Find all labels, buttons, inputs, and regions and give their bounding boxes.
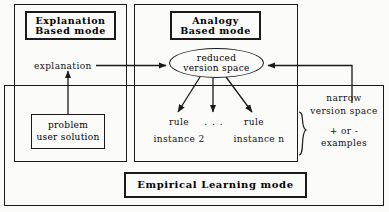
rvs-line-1: reduced xyxy=(197,53,236,63)
examples-line-2: examples xyxy=(305,138,383,149)
abm-line-2: Based mode xyxy=(180,26,251,36)
abm-line-1: Analogy xyxy=(192,16,239,26)
ellipsis-label: . . . xyxy=(197,117,231,128)
explanation-label: explanation xyxy=(34,61,92,72)
narrow-version-space-line-2: version space xyxy=(303,106,385,117)
reduced-version-space-node: reduced version space xyxy=(169,48,264,78)
rule-instance-n-line-2: instance n xyxy=(223,134,295,145)
rule-instance-2-line-1: rule xyxy=(158,117,200,128)
problem-user-solution-node: problem user solution xyxy=(31,114,105,149)
explanation-based-mode-label: Explanation Based mode xyxy=(25,11,116,40)
pus-line-1: problem xyxy=(48,120,88,131)
empirical-learning-mode-label: Empirical Learning mode xyxy=(124,172,307,198)
elm-line-1: Empirical Learning mode xyxy=(137,180,293,191)
analogy-based-mode-label: Analogy Based mode xyxy=(170,11,261,40)
diagram-canvas: Explanation Based mode Analogy Based mod… xyxy=(0,0,389,212)
examples-line-1: + or - xyxy=(311,126,377,137)
ebm-line-1: Explanation xyxy=(35,16,105,26)
narrow-version-space-line-1: narrow xyxy=(311,93,377,104)
ebm-line-2: Based mode xyxy=(35,26,106,36)
pus-line-2: user solution xyxy=(36,132,99,143)
rule-instance-n-line-1: rule xyxy=(233,117,275,128)
rvs-line-2: version space xyxy=(183,63,249,73)
rule-instance-2-line-2: instance 2 xyxy=(143,134,215,145)
